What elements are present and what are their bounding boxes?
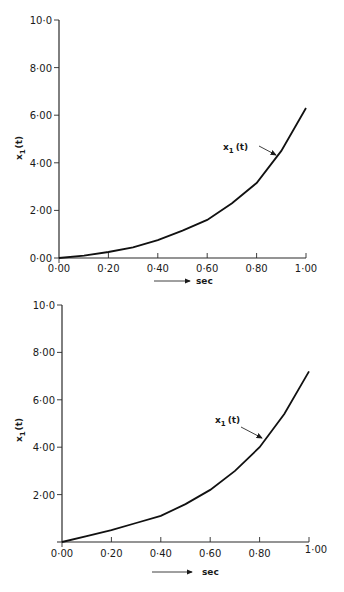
x-tick-labels: 0·00 0·20 0·40 0·60 0·80 1·00 <box>51 544 327 559</box>
x-tick-label: 0·60 <box>199 548 221 559</box>
x-tick-label: 0·40 <box>150 548 172 559</box>
y-tick-label: 6·00 <box>30 110 52 121</box>
x-tick-label: 0·80 <box>248 548 270 559</box>
y-ticks <box>54 20 59 258</box>
y-tick-label: 4·00 <box>33 442 55 453</box>
y-tick-label: 8·00 <box>30 63 52 74</box>
x-tick-label: 1·00 <box>295 263 317 274</box>
annotation-arrow-icon <box>241 427 262 438</box>
y-tick-label: 2·00 <box>30 205 52 216</box>
y-tick-label: 8·00 <box>33 347 55 358</box>
x-tick-label: 0·20 <box>100 548 122 559</box>
x-tick-label: 0·80 <box>245 263 267 274</box>
x-tick-label: 0·20 <box>97 263 119 274</box>
x-tick-label: 0·40 <box>147 263 169 274</box>
curve-annotation: x1(t) <box>215 415 240 428</box>
y-ticks <box>57 305 62 495</box>
x-tick-label: 0·00 <box>51 548 73 559</box>
x-axis-label: sec <box>202 567 219 577</box>
y-tick-label: 2·00 <box>33 490 55 501</box>
annotation-arrow-icon <box>259 146 276 155</box>
series-line-x1 <box>59 108 306 258</box>
y-tick-label: 10·0 <box>33 300 55 311</box>
y-tick-label: 10·0 <box>30 15 52 26</box>
x-tick-label: 0·00 <box>48 263 70 274</box>
svg-text:x1(t): x1(t) <box>14 136 27 160</box>
x-tick-label: 0·60 <box>196 263 218 274</box>
y-tick-label: 6·00 <box>33 395 55 406</box>
y-tick-labels: 10·0 8·00 6·00 4·00 2·00 <box>33 300 55 501</box>
svg-text:x1(t): x1(t) <box>14 418 27 442</box>
y-axis-label: x1(t) <box>14 136 27 160</box>
figure: 10·0 8·00 6·00 4·00 2·00 0·00 0·00 0·20 … <box>0 0 344 592</box>
series-line-x1 <box>62 371 309 542</box>
y-tick-labels: 10·0 8·00 6·00 4·00 2·00 0·00 <box>30 15 52 264</box>
curve-annotation: x1(t) <box>223 142 248 155</box>
chart-top: 10·0 8·00 6·00 4·00 2·00 0·00 0·00 0·20 … <box>14 15 317 286</box>
y-axis-label: x1(t) <box>14 418 27 442</box>
x-tick-label: 1·00 <box>305 544 327 555</box>
chart-bottom: 10·0 8·00 6·00 4·00 2·00 0·00 0·20 0·40 … <box>14 300 327 577</box>
x-axis-label: sec <box>196 276 213 286</box>
x-tick-labels: 0·00 0·20 0·40 0·60 0·80 1·00 <box>48 263 317 274</box>
y-tick-label: 4·00 <box>30 158 52 169</box>
